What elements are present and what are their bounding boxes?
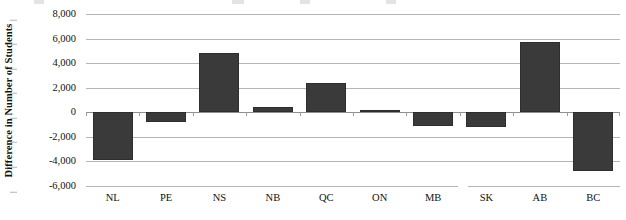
y-tick-mark xyxy=(10,142,17,143)
x-tick-mark xyxy=(567,112,568,116)
x-tick-mark xyxy=(619,112,620,116)
x-tick-mark xyxy=(353,112,354,116)
y-axis-title: Difference in Number of Students xyxy=(0,0,18,200)
bar-nb xyxy=(253,107,293,112)
x-label-bc: BC xyxy=(567,190,620,206)
gridline--6000 xyxy=(86,186,620,187)
x-tick-mark xyxy=(193,112,194,116)
bar-slot xyxy=(86,14,139,186)
top-cutoff-remnant xyxy=(0,0,626,6)
bar-slot xyxy=(193,14,246,186)
y-tick-mark xyxy=(10,68,17,69)
y-tick-label: -2,000 xyxy=(18,132,76,143)
bar-bc xyxy=(573,112,613,171)
y-tick-label: -4,000 xyxy=(18,156,76,167)
bar-qc xyxy=(306,83,346,112)
bar-ns xyxy=(199,53,239,112)
bar-ab xyxy=(520,42,560,112)
y-tick-label: 2,000 xyxy=(18,82,76,93)
bar-chart: Difference in Number of Students 8,0006,… xyxy=(0,0,626,220)
bar-slot xyxy=(139,14,192,186)
x-label-nb: NB xyxy=(246,190,299,206)
bar-mb xyxy=(413,112,453,126)
bar-pe xyxy=(146,112,186,122)
bar-slot xyxy=(353,14,406,186)
y-axis-title-label: Difference in Number of Students xyxy=(4,23,15,177)
y-tick-mark xyxy=(10,118,17,119)
x-tick-mark xyxy=(406,112,407,116)
bar-series xyxy=(86,14,620,186)
y-tick-mark xyxy=(10,19,17,20)
x-label-pe: PE xyxy=(139,190,192,206)
plot-area: 8,0006,0004,0002,0000-2,000-4,000-6,000 xyxy=(86,14,620,186)
x-tick-mark xyxy=(460,112,461,116)
x-label-ns: NS xyxy=(193,190,246,206)
bar-slot xyxy=(513,14,566,186)
x-label-qc: QC xyxy=(300,190,353,206)
y-tick-label: 4,000 xyxy=(18,58,76,69)
x-axis-labels: NLPENSNBQCONMBSKABBC xyxy=(86,190,620,212)
x-tick-mark xyxy=(513,112,514,116)
bar-slot xyxy=(246,14,299,186)
y-tick-label: 6,000 xyxy=(18,33,76,44)
bar-slot xyxy=(300,14,353,186)
y-tick-mark xyxy=(10,93,17,94)
x-label-mb: MB xyxy=(406,190,459,206)
bar-sk xyxy=(466,112,506,127)
bar-slot xyxy=(567,14,620,186)
bar-on xyxy=(360,110,400,112)
y-tick-label: 0 xyxy=(18,107,76,118)
y-tick-label: 8,000 xyxy=(18,9,76,20)
y-tick-mark xyxy=(10,167,17,168)
bar-slot xyxy=(406,14,459,186)
x-tick-mark xyxy=(300,112,301,116)
y-tick-mark xyxy=(10,191,17,192)
x-label-nl: NL xyxy=(86,190,139,206)
x-tick-mark xyxy=(246,112,247,116)
bar-nl xyxy=(93,112,133,160)
x-tick-mark xyxy=(139,112,140,116)
x-label-ab: AB xyxy=(513,190,566,206)
x-tick-mark xyxy=(86,112,87,116)
bar-slot xyxy=(460,14,513,186)
x-label-sk: SK xyxy=(460,190,513,206)
axis-line-gap xyxy=(458,185,468,188)
y-tick-label: -6,000 xyxy=(18,181,76,192)
x-label-on: ON xyxy=(353,190,406,206)
y-tick-mark xyxy=(10,44,17,45)
